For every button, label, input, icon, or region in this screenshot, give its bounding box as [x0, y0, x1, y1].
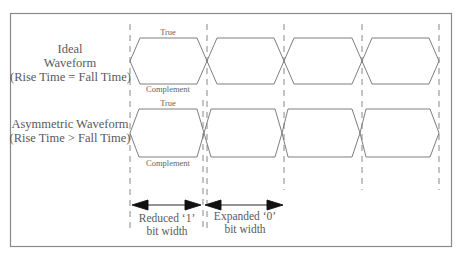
- bit-boundary-lines: [130, 24, 439, 232]
- ideal-waveform-title: Ideal Waveform (Rise Time = Fall Time): [10, 43, 130, 84]
- ideal-title-line-1: Ideal: [10, 43, 130, 57]
- ideal-true-label: True: [148, 28, 188, 37]
- expanded-bit-width-label: Expanded ‘0’ bit width: [205, 210, 285, 236]
- reduced-bit-width-label: Reduced ‘1’ bit width: [132, 212, 202, 238]
- asymmetric-title-line-1: Asymmetric Waveform: [8, 118, 132, 132]
- ideal-title-line-3: (Rise Time = Fall Time): [10, 71, 130, 85]
- ideal-waveform: [130, 38, 439, 84]
- reduced-bit-width-arrow: [132, 200, 201, 210]
- expanded-label-line-1: Expanded ‘0’: [205, 210, 285, 223]
- asymmetric-waveform: [130, 109, 439, 157]
- expanded-label-line-2: bit width: [205, 223, 285, 236]
- ideal-title-line-2: Waveform: [10, 57, 130, 71]
- asymmetric-waveform-title: Asymmetric Waveform (Rise Time > Fall Ti…: [8, 118, 132, 146]
- reduced-label-line-1: Reduced ‘1’: [132, 212, 202, 225]
- ideal-complement-label: Complement: [140, 85, 196, 94]
- reduced-label-line-2: bit width: [132, 225, 202, 238]
- asymmetric-complement-label: Complement: [140, 159, 196, 168]
- asymmetric-title-line-2: (Rise Time > Fall Time): [8, 132, 132, 146]
- asymmetric-true-label: True: [148, 99, 188, 108]
- expanded-bit-width-arrow: [205, 200, 283, 210]
